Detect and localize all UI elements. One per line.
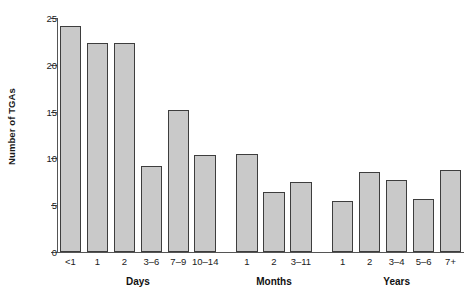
y-axis-tick-label: 15: [31, 106, 57, 117]
x-axis-line: [57, 252, 464, 253]
bar: [413, 199, 435, 252]
x-axis-tick-label: 1: [95, 256, 100, 267]
bar: [359, 172, 381, 252]
bar: [141, 166, 163, 252]
x-axis-tick-label: 1: [244, 256, 249, 267]
plot-area: [57, 18, 464, 252]
x-axis-tick-label: 3–11: [291, 256, 311, 267]
x-axis-tick-label: 3–6: [143, 256, 159, 267]
bar: [332, 201, 354, 252]
x-axis-tick-label: 2: [271, 256, 276, 267]
x-axis-tick-label: 2: [367, 256, 372, 267]
x-axis-tick-label: 2: [122, 256, 127, 267]
bar: [194, 155, 216, 252]
x-axis-tick-label: 10–14: [192, 256, 218, 267]
bar-chart-figure: Number of TGAs 0510152025 <1123–67–910–1…: [0, 0, 470, 308]
bar: [114, 43, 136, 252]
bar: [168, 110, 190, 252]
y-axis-tick-label: 10: [31, 153, 57, 164]
x-axis-tick-label: 3–4: [389, 256, 405, 267]
y-axis-title: Number of TGAs: [2, 0, 20, 252]
bar: [386, 180, 408, 252]
y-axis-tick-label: 20: [31, 59, 57, 70]
y-axis-tick-label: 0: [31, 247, 57, 258]
x-axis-tick-label: <1: [65, 256, 76, 267]
group-label-days: Days: [126, 276, 150, 287]
bar: [263, 192, 285, 252]
x-axis-tick-label: 1: [340, 256, 345, 267]
x-axis-tick-label: 7–9: [170, 256, 186, 267]
bar: [440, 170, 462, 252]
group-label-years: Years: [383, 276, 410, 287]
x-axis-tick-label: 5–6: [416, 256, 432, 267]
bar: [290, 182, 312, 252]
y-axis-tick-label: 5: [31, 200, 57, 211]
bar: [236, 154, 258, 252]
bar: [60, 26, 82, 253]
y-axis-tick-label: 25: [31, 13, 57, 24]
x-axis-tick-label: 7+: [445, 256, 456, 267]
group-label-months: Months: [256, 276, 292, 287]
y-axis-title-text: Number of TGAs: [6, 88, 17, 165]
bar: [87, 43, 109, 252]
